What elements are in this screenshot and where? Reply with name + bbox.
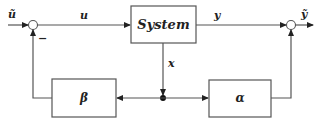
beta-block-label: β <box>79 91 88 105</box>
right-summing-junction <box>287 21 296 30</box>
signal-label-u: u <box>80 9 88 22</box>
minus-sign: − <box>38 32 47 45</box>
alpha-block-label: α <box>235 91 244 105</box>
signal-label-y: y <box>213 9 222 22</box>
system-block-label: System <box>137 17 189 32</box>
left-summing-junction <box>29 21 38 30</box>
signal-label-y-tilde: ỹ <box>300 8 309 21</box>
signal-label-x: x <box>167 57 175 70</box>
signal-label-u-tilde: ũ <box>8 8 16 21</box>
block-diagram: ũ − u System y ỹ x β α <box>0 0 325 124</box>
alpha-feedforward-wire <box>271 30 291 98</box>
